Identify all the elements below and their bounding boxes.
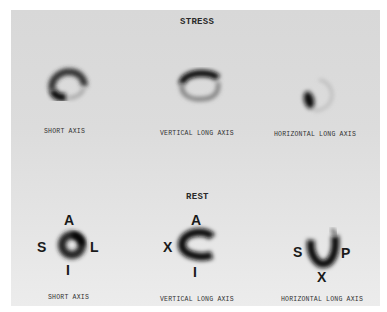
rest-short-axis-caption: SHORT AXIS (48, 294, 89, 301)
rest-vertical-long-axis-label-left: X (163, 240, 172, 254)
rest-short-axis-label-left: S (37, 240, 46, 254)
rest-vertical-long-axis-label-bottom: I (193, 265, 197, 279)
rest-horizontal-long-axis-label-right: P (341, 246, 350, 260)
rest-vertical-long-axis-label-top: A (191, 213, 201, 227)
rest-short-axis-label-bottom: I (66, 263, 70, 277)
stress-heading: STRESS (180, 17, 214, 27)
stress-short-axis-image (40, 60, 100, 105)
rest-horizontal-long-axis-caption: HORIZONTAL LONG AXIS (281, 296, 363, 303)
rest-short-axis-label-top: A (64, 213, 74, 227)
rest-vertical-long-axis-image (170, 223, 225, 268)
rest-vertical-long-axis-caption: VERTICAL LONG AXIS (160, 296, 234, 303)
rest-short-axis-image (52, 225, 92, 265)
rest-short-axis-label-right: L (90, 240, 99, 254)
stress-short-axis-caption: SHORT AXIS (44, 128, 85, 135)
rest-horizontal-long-axis-label-bottom: X (317, 270, 326, 284)
stress-horizontal-long-axis-image (295, 72, 345, 117)
stress-vertical-long-axis-image (172, 62, 232, 107)
stress-vertical-long-axis-caption: VERTICAL LONG AXIS (160, 130, 234, 137)
rest-heading: REST (186, 192, 209, 202)
stress-horizontal-long-axis-caption: HORIZONTAL LONG AXIS (274, 131, 356, 138)
rest-horizontal-long-axis-label-left: S (293, 245, 302, 259)
